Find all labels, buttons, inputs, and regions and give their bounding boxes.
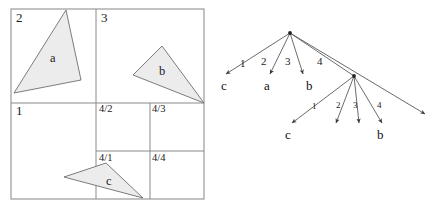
quadrant-label-1: 1 — [16, 103, 23, 118]
tree-edge-label-4: 4 — [317, 55, 323, 67]
quadtree-decomposition: a b c 2 3 1 4/2 4/3 4/1 4/4 — [11, 9, 204, 199]
sub-quadrant-label-4-2: 4/2 — [99, 103, 112, 114]
triangle-label-a: a — [50, 51, 56, 65]
tree-leaf-a-level1: a — [264, 78, 270, 93]
triangle-label-b: b — [159, 64, 165, 78]
quadtree-figure: a b c 2 3 1 4/2 4/3 4/1 4/4 — [0, 0, 435, 206]
sub-quadrant-label-4-1: 4/1 — [99, 152, 112, 163]
figure-canvas: a b c 2 3 1 4/2 4/3 4/1 4/4 — [0, 0, 435, 206]
triangle-c — [64, 163, 143, 198]
tree-node-root — [288, 31, 292, 35]
quadtree-tree: 1 2 3 4 c a b 1 2 3 4 c b — [221, 31, 425, 142]
tree-leaf-b-level2: b — [377, 127, 384, 142]
tree-edge-label-sub-3: 3 — [353, 100, 358, 110]
tree-node-quadrant-4 — [352, 74, 356, 78]
tree-edge-label-3: 3 — [285, 55, 291, 67]
sub-quadrant-label-4-3: 4/3 — [152, 103, 165, 114]
triangle-b — [133, 46, 204, 103]
tree-edge-root-overflow — [290, 33, 425, 114]
tree-leaf-c-level2: c — [285, 127, 291, 142]
tree-leaf-b-level1: b — [306, 78, 313, 93]
tree-edge-label-sub-2: 2 — [336, 100, 341, 110]
tree-leaf-c-level1: c — [221, 78, 227, 93]
tree-edge-label-sub-4: 4 — [377, 100, 382, 110]
tree-edge-label-1: 1 — [240, 57, 246, 69]
sub-quadrant-label-4-4: 4/4 — [152, 152, 166, 163]
tree-edge-label-sub-1: 1 — [312, 101, 317, 111]
quadrant-label-2: 2 — [16, 10, 23, 25]
triangle-a — [14, 10, 81, 93]
tree-edge-label-2: 2 — [261, 55, 267, 67]
quadrant-label-3: 3 — [101, 10, 108, 25]
triangle-label-c: c — [106, 174, 112, 188]
